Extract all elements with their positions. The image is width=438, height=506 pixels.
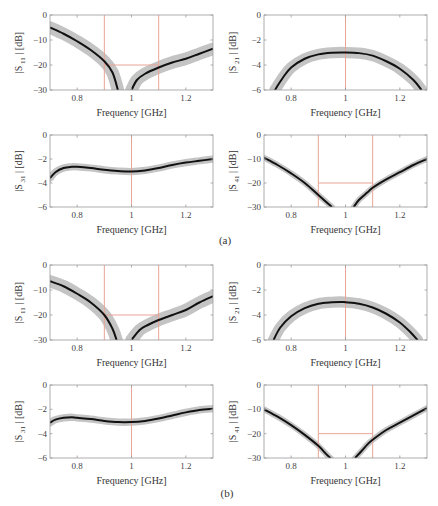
x-tick-label: 0.8 [72,210,84,220]
x-tick-label: 1.2 [180,461,191,471]
uncertainty-band [264,158,332,207]
plot-area [264,135,427,207]
x-axis-label: Frequency [GHz] [310,475,380,486]
x-tick-label: 0.8 [286,93,298,103]
subplot-21-a: 0.811.20−2−4−6Frequency [GHz]|S 21 | [dB… [227,10,427,118]
x-tick-label: 1.2 [180,210,191,220]
plot-area [50,15,213,90]
x-axis-label: Frequency [GHz] [96,224,166,235]
y-tick-label: −4 [251,310,261,320]
x-tick-label: 1.2 [180,343,191,353]
x-tick-label: 0.8 [72,461,84,471]
y-tick-label: 0 [43,380,48,390]
x-tick-label: 0.8 [286,461,298,471]
uncertainty-band [275,52,422,90]
y-axis-label: |S 11 | [dB] [13,282,27,323]
plot-area [274,265,418,340]
x-tick-label: 1.2 [394,343,405,353]
y-tick-label: −2 [37,404,47,414]
y-axis-label: |S 21 | [dB] [227,32,241,74]
x-tick-label: 1 [129,343,134,353]
subplot-31-a: 0.811.20−2−4−6Frequency [GHz]|S 31 | [dB… [13,130,213,235]
y-tick-label: −2 [251,35,261,45]
y-tick-label: −10 [33,285,48,295]
x-axis-label: Frequency [GHz] [310,107,380,118]
subplot-11-b: 0.811.20−10−20−30Frequency [GHz]|S 11 | … [13,260,213,368]
x-tick-label: 1.2 [180,93,191,103]
uncertainty-band [50,28,118,91]
x-axis-label: Frequency [GHz] [310,357,380,368]
panel-label-b: (b) [221,487,234,500]
x-axis-label: Frequency [GHz] [310,224,380,235]
y-tick-label: −20 [247,429,262,439]
y-axis-label: |S 31 | [dB] [13,401,27,443]
y-axis-label: |S 41 | [dB] [227,401,241,443]
x-tick-label: 1.2 [394,210,405,220]
x-tick-label: 1 [343,461,348,471]
x-tick-label: 1 [129,210,134,220]
plot-area [264,385,427,458]
y-tick-label: 0 [43,10,48,20]
panel-label-a: (a) [219,234,232,247]
x-axis-label: Frequency [GHz] [96,357,166,368]
x-tick-label: 1.2 [394,93,405,103]
y-tick-label: −20 [33,60,48,70]
uncertainty-band [355,408,427,458]
x-tick-label: 0.8 [72,343,84,353]
y-tick-label: −20 [247,178,262,188]
y-tick-label: −2 [37,154,47,164]
plot-area [50,385,213,458]
y-tick-label: −10 [247,404,262,414]
y-tick-label: −30 [247,453,262,463]
y-tick-label: −30 [33,335,48,345]
y-tick-label: 0 [257,10,262,20]
y-tick-label: 0 [43,130,48,140]
y-tick-label: −10 [247,154,262,164]
x-tick-label: 1 [343,343,348,353]
plot-area [50,265,213,340]
y-tick-label: −6 [251,85,261,95]
y-tick-label: −20 [33,310,48,320]
y-tick-label: −4 [37,429,47,439]
y-tick-label: −6 [37,202,47,212]
y-tick-label: 0 [43,260,48,270]
y-tick-label: 0 [257,380,262,390]
y-axis-label: |S 11 | [dB] [13,32,27,73]
x-tick-label: 1 [129,93,134,103]
x-tick-label: 0.8 [286,210,298,220]
subplot-11-a: 0.811.20−10−20−30Frequency [GHz]|S 11 | … [13,10,213,118]
x-tick-label: 0.8 [286,343,298,353]
y-tick-label: −30 [33,85,48,95]
uncertainty-band [50,281,117,340]
y-axis-label: |S 41 | [dB] [227,150,241,192]
y-tick-label: −6 [251,335,261,345]
s-parameter-figure: 0.811.20−10−20−30Frequency [GHz]|S 11 | … [0,0,438,506]
x-tick-label: 1 [343,93,348,103]
y-axis-label: |S 21 | [dB] [227,282,241,324]
subplot-31-b: 0.811.20−2−4−6Frequency [GHz]|S 31 | [dB… [13,380,213,486]
x-tick-label: 0.8 [72,93,84,103]
x-axis-label: Frequency [GHz] [96,107,166,118]
x-tick-label: 1 [343,210,348,220]
y-axis-label: |S 31 | [dB] [13,150,27,192]
y-tick-label: −6 [37,453,47,463]
subplot-41-b: 0.811.20−10−20−30Frequency [GHz]|S 41 | … [227,380,427,486]
y-tick-label: −30 [247,202,262,212]
y-tick-label: −4 [37,178,47,188]
subplot-41-a: 0.811.20−10−20−30Frequency [GHz]|S 41 | … [227,130,427,235]
y-tick-label: −4 [251,60,261,70]
plots-group: 0.811.20−10−20−30Frequency [GHz]|S 11 | … [13,10,427,486]
x-axis-label: Frequency [GHz] [96,475,166,486]
y-tick-label: 0 [257,260,262,270]
plot-area [275,15,422,90]
plot-area [50,135,213,207]
y-tick-label: 0 [257,130,262,140]
uncertainty-band [132,49,214,90]
y-tick-label: −2 [251,285,261,295]
y-tick-label: −10 [33,35,48,45]
x-tick-label: 1 [129,461,134,471]
subplot-21-b: 0.811.20−2−4−6Frequency [GHz]|S 21 | [dB… [227,260,427,368]
x-tick-label: 1.2 [394,461,405,471]
